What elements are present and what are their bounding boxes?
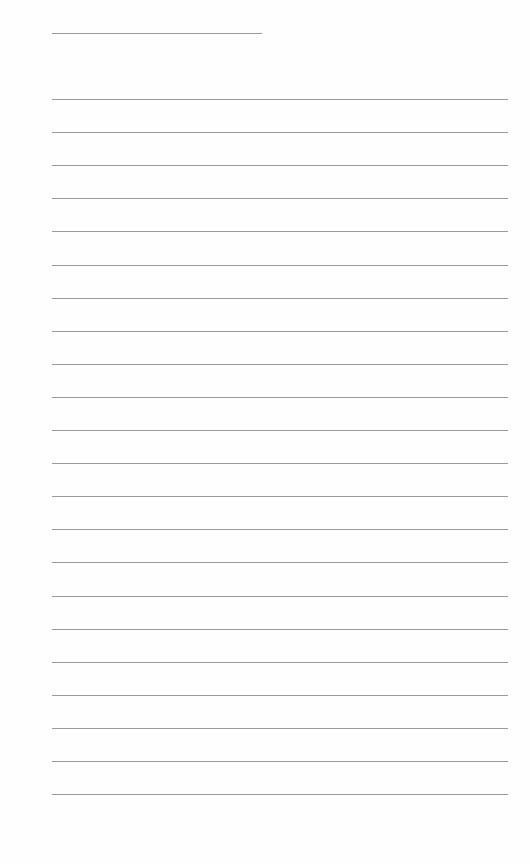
ruled-line — [52, 198, 508, 199]
ruled-line — [52, 728, 508, 729]
ruled-line — [52, 794, 508, 795]
lined-paper-page — [0, 0, 530, 864]
ruled-line — [52, 364, 508, 365]
ruled-line — [52, 430, 508, 431]
ruled-line — [52, 695, 508, 696]
ruled-line — [52, 529, 508, 530]
header-name-line — [52, 33, 262, 34]
ruled-line — [52, 596, 508, 597]
ruled-line — [52, 662, 508, 663]
ruled-line — [52, 99, 508, 100]
ruled-line — [52, 298, 508, 299]
ruled-line — [52, 265, 508, 266]
ruled-line — [52, 331, 508, 332]
ruled-line — [52, 231, 508, 232]
ruled-line — [52, 132, 508, 133]
ruled-line — [52, 463, 508, 464]
ruled-line — [52, 761, 508, 762]
ruled-line — [52, 496, 508, 497]
ruled-line — [52, 397, 508, 398]
ruled-line — [52, 562, 508, 563]
ruled-line — [52, 165, 508, 166]
ruled-line — [52, 629, 508, 630]
